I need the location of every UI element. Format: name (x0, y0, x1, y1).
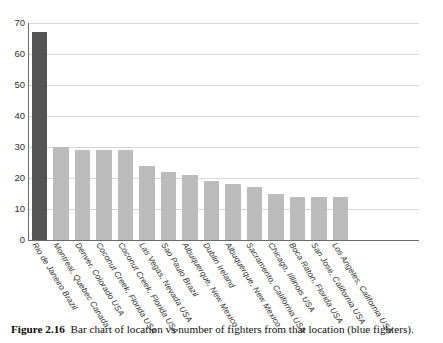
bars-group (29, 23, 419, 240)
figure-container: 010203040506070 Rio de Janeiro BrazilMon… (0, 0, 443, 343)
bar (268, 194, 283, 241)
y-tick-label: 50 (14, 80, 25, 90)
bar (75, 150, 90, 240)
y-tick-label: 40 (14, 111, 25, 121)
bar-chart: 010203040506070 Rio de Janeiro BrazilMon… (0, 0, 443, 250)
bar (118, 150, 133, 240)
x-axis-labels: Rio de Janeiro BrazilMontreal, Quebec Ca… (0, 241, 443, 313)
bar (161, 172, 176, 240)
caption-body: Bar chart of location vs number of fight… (70, 323, 413, 335)
y-tick-label: 60 (14, 49, 25, 59)
bar (182, 175, 197, 240)
bar (247, 187, 262, 240)
figure-caption: Figure 2.16 Bar chart of location vs num… (11, 322, 439, 336)
bar (225, 184, 240, 240)
y-tick-label: 10 (14, 204, 25, 214)
bar (32, 32, 47, 240)
y-tick-label: 70 (14, 18, 25, 28)
bar (96, 150, 111, 240)
y-axis: 010203040506070 (0, 0, 28, 250)
bar (204, 181, 219, 240)
plot-area (29, 23, 419, 240)
bar (311, 197, 326, 240)
y-tick-label: 30 (14, 142, 25, 152)
y-tick-label: 20 (14, 173, 25, 183)
bar (139, 166, 154, 240)
bar (53, 147, 68, 240)
bar (333, 197, 348, 240)
bar (290, 197, 305, 240)
caption-label: Figure 2.16 (11, 323, 65, 335)
